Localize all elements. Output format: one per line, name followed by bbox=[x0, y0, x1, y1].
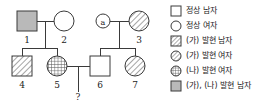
individual-2: 2 bbox=[54, 11, 74, 45]
legend: 정상 남자 정상 여자 (가) 발현 남자 bbox=[170, 3, 276, 99]
individual-2-label: 2 bbox=[61, 35, 67, 45]
individual-6-label: 6 bbox=[97, 80, 103, 90]
individual-a: a bbox=[96, 14, 110, 28]
individual-7-label: 7 bbox=[132, 80, 138, 90]
individual-1-label: 1 bbox=[24, 35, 30, 45]
circle-open-icon bbox=[170, 20, 182, 32]
legend-label: (가) 발현 남자 bbox=[186, 36, 232, 45]
individual-5-label: 5 bbox=[54, 80, 60, 90]
legend-label: (가), (나) 발현 남자 bbox=[186, 81, 251, 90]
individual-a-marker: a bbox=[101, 18, 106, 27]
individual-4-label: 4 bbox=[19, 80, 25, 90]
square-gray-icon bbox=[170, 80, 182, 92]
individual-4: 4 bbox=[12, 56, 32, 90]
pedigree-chart: 1 2 a 3 4 bbox=[0, 0, 168, 101]
legend-item-trait-a-male: (가) 발현 남자 bbox=[170, 33, 276, 48]
circle-grid-icon bbox=[170, 65, 182, 77]
legend-item-normal-male: 정상 남자 bbox=[170, 3, 276, 18]
square-diagonal-icon bbox=[170, 35, 182, 47]
legend-item-trait-b-female: (나) 발현 여자 bbox=[170, 63, 276, 78]
legend-item-trait-a-female: (가) 발현 여자 bbox=[170, 48, 276, 63]
legend-label: (나) 발현 여자 bbox=[186, 66, 232, 75]
individual-5: 5 bbox=[47, 56, 67, 90]
legend-label: 정상 여자 bbox=[186, 21, 217, 30]
individual-1: 1 bbox=[17, 11, 37, 45]
individual-3: 3 bbox=[129, 11, 149, 45]
unknown-offspring-label: ? bbox=[76, 92, 81, 101]
individual-6: 6 bbox=[90, 56, 110, 90]
pedigree-figure: 1 2 a 3 4 bbox=[0, 0, 276, 101]
individual-7: 7 bbox=[125, 56, 145, 90]
individual-3-label: 3 bbox=[136, 35, 142, 45]
legend-label: 정상 남자 bbox=[186, 6, 217, 15]
legend-item-trait-ab-male: (가), (나) 발현 남자 bbox=[170, 78, 276, 93]
legend-label: (가) 발현 여자 bbox=[186, 51, 232, 60]
square-open-icon bbox=[170, 5, 182, 17]
circle-diagonal-icon bbox=[170, 50, 182, 62]
legend-item-normal-female: 정상 여자 bbox=[170, 18, 276, 33]
